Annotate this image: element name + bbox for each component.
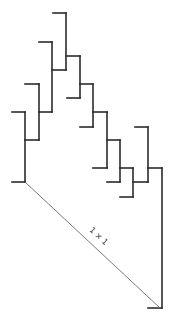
dendrogram-branches — [12, 13, 162, 308]
dendrogram-diagram: 1 × 1 — [0, 0, 172, 335]
scale-diagonal-line — [25, 182, 160, 308]
